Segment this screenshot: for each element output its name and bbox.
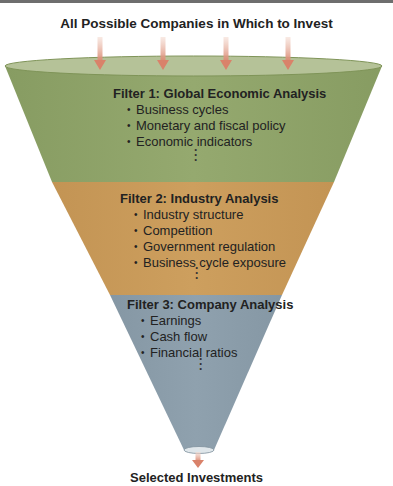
- more-items-ellipsis: ···: [198, 357, 204, 372]
- list-item: Business cycles: [127, 102, 326, 118]
- filter-2-list: Industry structure Competition Governmen…: [120, 207, 286, 271]
- filter-3-list: Earnings Cash flow Financial ratios: [127, 313, 293, 361]
- list-item: Government regulation: [134, 239, 286, 255]
- filter-1-list: Business cycles Monetary and fiscal poli…: [113, 102, 326, 150]
- funnel-top-rim: [5, 56, 382, 76]
- output-arrow-icon: [192, 452, 204, 468]
- filter-1: Filter 1: Global Economic Analysis Busin…: [113, 86, 326, 150]
- diagram-title: All Possible Companies in Which to Inves…: [0, 16, 393, 31]
- list-item: Financial ratios: [141, 345, 293, 361]
- filter-2-heading: Filter 2: Industry Analysis: [120, 191, 286, 207]
- diagram-caption: Selected Investments: [0, 470, 393, 485]
- list-item: Business cycle exposure: [134, 255, 286, 271]
- list-item: Earnings: [141, 313, 293, 329]
- filter-3-heading: Filter 3: Company Analysis: [127, 297, 293, 313]
- filter-3: Filter 3: Company Analysis Earnings Cash…: [127, 297, 293, 361]
- list-item: Cash flow: [141, 329, 293, 345]
- more-items-ellipsis: ···: [193, 148, 199, 163]
- list-item: Industry structure: [134, 207, 286, 223]
- list-item: Economic indicators: [127, 134, 326, 150]
- list-item: Competition: [134, 223, 286, 239]
- filter-1-heading: Filter 1: Global Economic Analysis: [113, 86, 326, 102]
- filter-2: Filter 2: Industry Analysis Industry str…: [120, 191, 286, 271]
- list-item: Monetary and fiscal policy: [127, 118, 326, 134]
- more-items-ellipsis: ···: [194, 266, 200, 281]
